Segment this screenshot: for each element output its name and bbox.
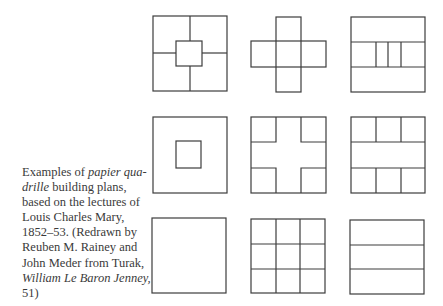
plan-r2c1 xyxy=(153,117,227,193)
plan-r3c3 xyxy=(350,220,424,294)
plan-r2c3 xyxy=(351,117,425,193)
plan-r1c1 xyxy=(153,16,227,91)
plan-r2c2 xyxy=(251,117,326,193)
plan-r3c2 xyxy=(251,219,325,293)
plan-r3c1 xyxy=(152,218,226,293)
plan-r1c3 xyxy=(351,17,425,92)
plan-r1c2 xyxy=(251,17,326,92)
plans-figure xyxy=(0,0,443,306)
